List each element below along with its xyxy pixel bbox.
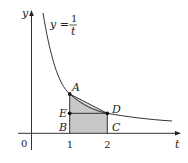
point-d-marker bbox=[105, 111, 109, 115]
curve-label-lhs: y = bbox=[49, 18, 69, 31]
x-axis-arrow-icon bbox=[175, 131, 181, 136]
label-b: B bbox=[58, 121, 67, 134]
origin-label: 0 bbox=[21, 138, 27, 149]
label-d: D bbox=[111, 103, 121, 116]
tick-label-2: 2 bbox=[104, 139, 110, 150]
x-axis-label: t bbox=[175, 138, 180, 151]
point-e-marker bbox=[68, 111, 72, 115]
diagram-canvas: A E B D C y t 0 1 2 y = 1 t bbox=[0, 0, 188, 163]
label-a: A bbox=[71, 81, 80, 94]
tick-label-1: 1 bbox=[67, 139, 73, 150]
y-axis-label: y bbox=[21, 7, 29, 20]
label-c: C bbox=[112, 121, 121, 134]
curve-label-denominator: t bbox=[71, 25, 76, 38]
curve-label-numerator: 1 bbox=[71, 13, 77, 24]
label-e: E bbox=[58, 107, 67, 120]
y-axis-arrow-icon bbox=[29, 10, 34, 16]
